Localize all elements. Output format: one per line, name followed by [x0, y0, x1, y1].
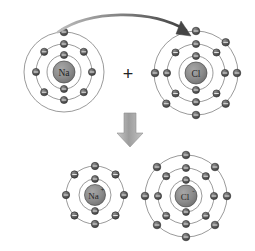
valence-electron	[153, 163, 161, 171]
electron	[91, 162, 98, 169]
electron	[80, 89, 87, 96]
electron	[183, 209, 190, 216]
electron	[80, 48, 87, 55]
electron	[192, 52, 199, 59]
electron	[71, 171, 78, 178]
electron	[92, 176, 99, 183]
electron	[172, 49, 179, 56]
electron	[62, 191, 69, 198]
electron	[154, 192, 161, 199]
electron	[163, 212, 170, 219]
valence-electron	[163, 100, 171, 108]
electron	[182, 164, 189, 171]
electron	[210, 192, 217, 199]
electron	[213, 49, 220, 56]
chlorine-nucleus: Cl	[185, 62, 207, 84]
electron	[112, 171, 119, 178]
electron	[60, 96, 67, 103]
sodium-ion-nucleus-label: Na	[88, 191, 99, 201]
valence-electron	[182, 233, 190, 241]
electron	[120, 191, 127, 198]
electron	[163, 69, 170, 76]
electron	[60, 51, 67, 58]
plus-sign-icon: +	[123, 64, 134, 84]
valence-electron	[211, 163, 219, 171]
electron	[192, 40, 199, 47]
electron	[192, 98, 199, 105]
valence-electron	[233, 69, 241, 77]
electron	[88, 68, 95, 75]
electron	[112, 212, 119, 219]
sodium-ion-nucleus: Na +	[85, 185, 106, 206]
electron	[202, 173, 209, 180]
electron	[172, 90, 179, 97]
electron	[92, 208, 99, 215]
valence-electron	[182, 151, 190, 159]
electron	[182, 220, 189, 227]
electron	[202, 212, 209, 219]
valence-electron	[141, 192, 149, 200]
valence-electron	[223, 192, 231, 200]
electron	[60, 40, 67, 47]
electron	[163, 173, 170, 180]
chloride-ion-nucleus-label: Cl	[181, 192, 190, 202]
chlorine-nucleus-label: Cl	[192, 69, 201, 79]
electron	[221, 69, 228, 76]
electron	[41, 48, 48, 55]
plus-operator: +	[123, 64, 134, 84]
electron	[91, 220, 98, 227]
valence-electron	[211, 221, 219, 229]
valence-electron	[151, 69, 159, 77]
valence-electron	[192, 27, 200, 35]
chloride-ion-nucleus: Cl -	[175, 185, 197, 207]
ionic-bonding-diagram: Na +	[0, 0, 255, 251]
valence-electron	[192, 111, 200, 119]
electron	[213, 90, 220, 97]
electron	[32, 68, 39, 75]
electron	[60, 85, 67, 92]
diagram-canvas: Na +	[0, 0, 255, 251]
electron	[192, 86, 199, 93]
valence-electron	[222, 100, 230, 108]
electron	[71, 212, 78, 219]
electron	[183, 177, 190, 184]
sodium-nucleus: Na	[53, 61, 75, 83]
electron	[41, 89, 48, 96]
sodium-nucleus-label: Na	[58, 68, 70, 78]
valence-electron	[222, 39, 230, 47]
valence-electron	[153, 221, 161, 229]
sodium-ion-charge-label: +	[101, 186, 105, 194]
chloride-ion: Cl -	[141, 151, 231, 241]
